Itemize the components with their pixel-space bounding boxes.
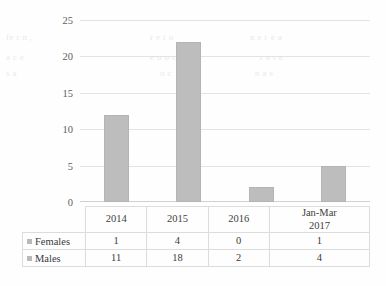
bar-series	[80, 20, 370, 202]
bar-column-2014	[80, 20, 153, 202]
y-tick-label: 5	[33, 160, 73, 171]
cell-males-2015: 18	[147, 250, 208, 267]
chart-figure: fe r n , a c e s a r e t o n e r e a e n…	[0, 0, 386, 286]
legend-swatch-icon	[27, 256, 32, 261]
table-row-females: Females 1 4 0 1	[23, 233, 370, 250]
column-header-2015: 2015	[147, 207, 208, 233]
bar-column-2015	[153, 20, 226, 202]
bar-2016	[249, 187, 274, 202]
table-row-males: Males 11 18 2 4	[23, 250, 370, 267]
bar-2015	[176, 42, 201, 202]
bar-column-jan-mar-2017	[298, 20, 371, 202]
cell-males-2014: 11	[86, 250, 147, 267]
legend-item-males: Males	[23, 250, 86, 267]
data-table: 2014 2015 2016 Jan-Mar 2017 Females 1 4 …	[22, 206, 370, 267]
y-tick-label: 15	[33, 87, 73, 98]
column-header-jan-mar-2017: Jan-Mar 2017	[269, 207, 369, 233]
column-header-line-2: 2017	[270, 220, 369, 232]
cell-females-2014: 1	[86, 233, 147, 250]
artifact-text: a c e	[6, 52, 24, 62]
column-header-2014: 2014	[86, 207, 147, 233]
cell-females-2015: 4	[147, 233, 208, 250]
bar-column-2016	[225, 20, 298, 202]
legend-swatch-icon	[27, 239, 32, 244]
artifact-text: s a	[6, 68, 17, 78]
bar-jan-mar-2017	[321, 166, 346, 202]
column-header-2016: 2016	[208, 207, 269, 233]
y-tick-label: 10	[33, 124, 73, 135]
legend-label-females: Females	[35, 235, 70, 246]
y-tick-label: 20	[33, 51, 73, 62]
y-tick-label: 25	[33, 15, 73, 26]
artifact-text: fe r n ,	[6, 32, 33, 42]
header-blank-cell	[23, 207, 86, 233]
table-header-row: 2014 2015 2016 Jan-Mar 2017	[23, 207, 370, 233]
bar-2014	[104, 115, 129, 202]
cell-females-jan-mar-2017: 1	[269, 233, 369, 250]
cell-males-2016: 2	[208, 250, 269, 267]
legend-label-males: Males	[35, 252, 61, 263]
column-header-line-1: Jan-Mar	[270, 207, 369, 219]
cell-males-jan-mar-2017: 4	[269, 250, 369, 267]
cell-females-2016: 0	[208, 233, 269, 250]
legend-item-females: Females	[23, 233, 86, 250]
